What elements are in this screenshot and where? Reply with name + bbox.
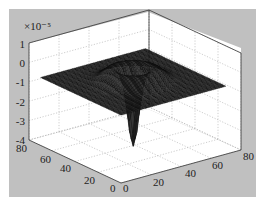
z-tick-label: -2 — [16, 96, 25, 108]
y-tick-label: 80 — [16, 142, 28, 154]
x-tick-label: 60 — [212, 159, 224, 171]
z-tick-label: 1 — [20, 38, 26, 50]
y-tick-label: 60 — [40, 153, 52, 165]
z-exponent-label: ×10⁻⁵ — [24, 20, 51, 32]
figure-canvas: ×10⁻⁵ 1 0 -1 -2 -3 -4 80 60 40 20 0 0 20… — [0, 0, 266, 207]
z-tick-label: -1 — [16, 76, 25, 88]
z-tick-label: -3 — [16, 115, 26, 127]
y-tick-label: 40 — [60, 162, 72, 174]
y-tick-label: 20 — [84, 174, 96, 186]
x-tick-label: 40 — [185, 167, 197, 179]
x-tick-label: 80 — [243, 150, 255, 162]
z-tick-label: 0 — [20, 57, 26, 69]
x-tick-label: 20 — [153, 176, 165, 188]
y-tick-label: 0 — [110, 182, 116, 194]
x-tick-label: 0 — [123, 182, 129, 194]
